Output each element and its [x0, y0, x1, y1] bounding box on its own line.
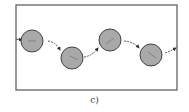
figure-caption: c)	[0, 95, 189, 105]
arrow-exit	[165, 48, 176, 53]
circle-node-3	[99, 29, 121, 51]
arrow-3-4	[124, 41, 139, 48]
arrow-2-3	[84, 48, 98, 57]
circle-node-2	[61, 47, 83, 69]
circle-node-4	[140, 44, 162, 66]
arrow-1-2	[48, 41, 60, 50]
